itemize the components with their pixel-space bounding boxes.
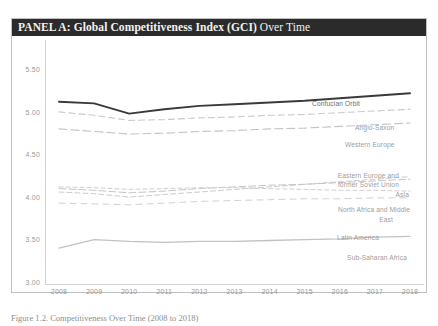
series-label-eastern-europe-line-2: former Soviet Union [12,181,399,190]
panel-a-container: PANEL A: Global Competitiveness Index (G… [11,18,427,293]
series-label-asia: Asia [12,191,409,200]
series-label-north-africa-line-1: North Africa and Middle [12,206,410,215]
panel-title-bold: PANEL A: Global Competitiveness Index (G… [18,21,257,33]
series-label-confucian-orbit: Confucian Orbit [312,100,360,109]
series-label-north-africa-line-2: East [12,216,393,225]
series-label-latin-america: Latin America [12,234,379,243]
chart-screenshot: PANEL A: Global Competitiveness Index (G… [0,0,438,326]
series-line-anglo-saxon [59,109,410,120]
series-label-eastern-europe-line-1: Eastern Europe and [12,172,399,181]
series-label-anglo-saxon: Anglo-Saxon [355,124,394,133]
panel-header-bar: PANEL A: Global Competitiveness Index (G… [12,19,426,36]
panel-title-regular: Over Time [257,21,310,33]
figure-caption: Figure 1.2. Competitiveness Over Time (2… [11,313,431,323]
panel-title: PANEL A: Global Competitiveness Index (G… [18,20,310,35]
plot-area: 5.505.004.504.003.503.00 200820092010201… [12,36,426,292]
series-label-sub-saharan-africa: Sub-Saharan Africa [12,254,407,263]
series-label-western-europe: Western Europe [345,141,395,150]
